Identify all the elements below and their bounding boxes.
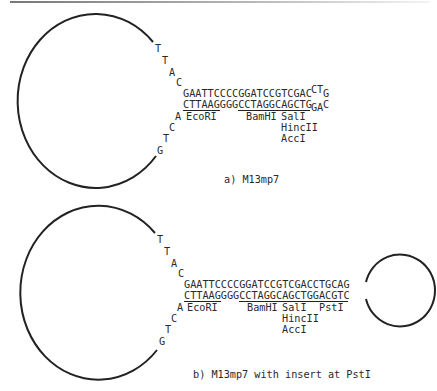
base: T: [162, 55, 168, 66]
base: T: [164, 246, 170, 257]
tail-base: C: [323, 99, 329, 110]
vector-circle-b: [20, 206, 157, 380]
base: A: [177, 302, 183, 313]
base: C: [169, 122, 175, 133]
base: G: [157, 145, 163, 156]
tail-base: G: [323, 88, 329, 99]
bottom-strand: CTTAAGGGGCCTAGGCAGCTGGACGTC: [184, 290, 350, 301]
base: T: [157, 234, 163, 245]
base: T: [165, 324, 171, 335]
top-strand: GAATTCCCCGGATCCGTCGACCTGCAG: [184, 279, 350, 290]
base: C: [176, 77, 182, 88]
site-label-psti: PstI: [319, 302, 344, 313]
site-label-ecori: EcoRI: [186, 111, 217, 122]
caption-a: a) M13mp7: [224, 174, 279, 185]
base: T: [163, 133, 169, 144]
site-label-acci: AccI: [282, 324, 307, 335]
site-label-hincii: HincII: [281, 122, 318, 133]
site-label-acci: AccI: [281, 133, 306, 144]
top-strand: GAATTCCCCGGATCCGTCGAC: [183, 88, 312, 99]
base: A: [175, 111, 181, 122]
base: A: [171, 258, 177, 269]
site-label-sali: SalI: [282, 302, 307, 313]
caption-b: b) M13mp7 with insert at PstI: [193, 369, 371, 380]
base: G: [159, 336, 165, 347]
site-label-sali: SalI: [281, 111, 306, 122]
base: C: [178, 268, 184, 279]
site-label-ecori: EcoRI: [187, 302, 218, 313]
vector-circle-a: [18, 14, 156, 188]
base: C: [171, 313, 177, 324]
base: A: [169, 67, 175, 78]
site-label-hincii: HincII: [282, 313, 319, 324]
panel-b: T T A C GAATTCCCCGGATCCGTCGACCTGCAG CTTA…: [20, 206, 435, 380]
panel-a: T T A C GAATTCCCCGGATCCGTCGAC C T G CTTA…: [18, 14, 330, 188]
base: T: [155, 43, 161, 54]
site-label-bamhi: BamHI: [246, 111, 277, 122]
bottom-strand: CTTAAGGGGCCTAGGCAGCTG: [183, 99, 312, 110]
m13mp7-diagram: T T A C GAATTCCCCGGATCCGTCGAC C T G CTTA…: [0, 0, 437, 391]
site-label-bamhi: BamHI: [247, 302, 278, 313]
insert-circle: [366, 255, 435, 327]
